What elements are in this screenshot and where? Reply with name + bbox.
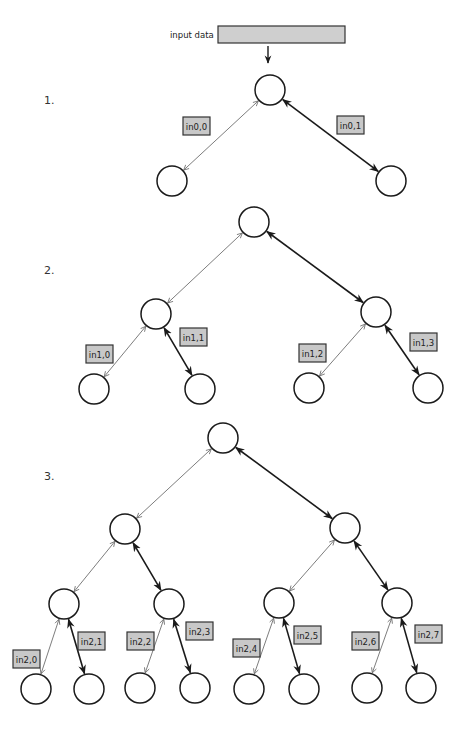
step3-node-12: [289, 674, 319, 704]
edge-label: in2,1: [78, 632, 105, 650]
edge-label-text: in1,1: [183, 333, 204, 343]
edge-label: in2,7: [415, 625, 442, 643]
edge-label: in2,6: [352, 632, 379, 650]
step3-edge-right-5: [354, 541, 388, 590]
edge-label-text: in1,0: [89, 350, 110, 360]
step3-node-8: [74, 674, 104, 704]
step3-edge-right-13: [401, 618, 416, 672]
edge-label: in1,0: [86, 345, 113, 363]
step3-node-4: [154, 589, 184, 619]
step2-root-node: [239, 207, 269, 237]
edge-labels-layer: in0,0in0,1in1,0in1,1in1,2in1,3in2,0in2,1…: [13, 116, 442, 668]
edge-label: in0,1: [337, 116, 364, 134]
step3-root-node: [208, 423, 238, 453]
step3-node-5: [264, 588, 294, 618]
edge-label-text: in2,3: [189, 627, 210, 637]
step3-node-3: [49, 589, 79, 619]
edge-label: in2,3: [186, 622, 213, 640]
edge-label-text: in2,0: [16, 655, 37, 665]
edge-label-text: in0,0: [186, 122, 207, 132]
step3-edge-left-0: [137, 449, 212, 518]
step3-node-9: [125, 673, 155, 703]
step2-node-4: [185, 374, 215, 404]
input-data-box: [218, 26, 345, 43]
edge-label-text: in2,2: [130, 637, 151, 647]
step3-node-7: [21, 674, 51, 704]
edge-label-text: in1,3: [413, 338, 434, 348]
step1-node-2: [376, 166, 406, 196]
edge-label: in2,5: [294, 626, 321, 644]
step1-root-node: [255, 75, 285, 105]
step-number-2: 2.: [44, 264, 55, 277]
step3-node-14: [406, 673, 436, 703]
step3-node-10: [180, 673, 210, 703]
edge-label: in1,1: [180, 328, 207, 346]
step2-node-1: [141, 299, 171, 329]
edge-label: in0,0: [183, 117, 210, 135]
step-number-1: 1.: [44, 94, 55, 107]
edge-label: in2,2: [127, 632, 154, 650]
edge-label-text: in0,1: [340, 121, 361, 131]
step3-edge-left-6: [41, 619, 59, 674]
step-number-3: 3.: [44, 470, 55, 483]
edge-label-text: in2,6: [355, 637, 376, 647]
step3-node-13: [352, 673, 382, 703]
step3-edge-right-3: [133, 543, 161, 590]
step2-edge-left-0: [168, 233, 243, 303]
edge-label-text: in2,1: [81, 637, 102, 647]
step2-node-2: [361, 297, 391, 327]
tree-diagram: input data 1. 2. 3. in0,0in0,1in1,0in1,1…: [0, 0, 466, 738]
step3-edge-left-4: [290, 540, 335, 591]
step3-node-11: [234, 674, 264, 704]
step1-node-1: [157, 166, 187, 196]
nodes-layer: [21, 75, 443, 704]
input-data-label: input data: [170, 30, 214, 40]
edge-label-text: in2,7: [418, 630, 439, 640]
step2-edge-right-1: [267, 232, 363, 303]
edge-label: in1,2: [299, 344, 326, 362]
step3-node-6: [382, 588, 412, 618]
step3-edge-left-2: [74, 541, 115, 591]
step3-node-1: [110, 514, 140, 544]
edge-label-text: in1,2: [302, 349, 323, 359]
step1-edge-right-1: [283, 100, 378, 172]
edge-label-text: in2,5: [297, 631, 318, 641]
step2-node-6: [413, 373, 443, 403]
step3-node-2: [330, 513, 360, 543]
step3-edge-right-1: [236, 448, 332, 519]
edge-label: in1,3: [410, 333, 437, 351]
step2-node-5: [294, 373, 324, 403]
edge-label-text: in2,4: [236, 644, 257, 654]
step2-node-3: [79, 374, 109, 404]
input-data-group: input data: [170, 26, 345, 63]
edge-label: in2,0: [13, 650, 40, 668]
edge-label: in2,4: [233, 639, 260, 657]
